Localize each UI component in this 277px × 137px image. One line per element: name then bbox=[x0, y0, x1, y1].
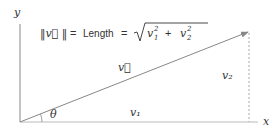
radicand-v1-sup: 2 bbox=[153, 25, 159, 33]
y-axis-label: y bbox=[13, 6, 21, 19]
vector-diagram: y x v⃗ v₁ v₂ θ ‖v⃗ ‖ = Length = v 2 1 + … bbox=[0, 0, 277, 137]
formula-length-word: Length bbox=[83, 28, 114, 39]
radicand-v1-sub: 1 bbox=[154, 34, 158, 42]
radicand-v2-sup: 2 bbox=[186, 25, 192, 33]
v2-label: v₂ bbox=[222, 69, 233, 82]
radicand-v2: v bbox=[180, 27, 187, 40]
v1-label: v₁ bbox=[130, 106, 141, 119]
formula-norm: ‖v⃗ ‖ bbox=[40, 27, 67, 41]
formula-plus: + bbox=[165, 27, 171, 39]
formula-equals-1: = bbox=[70, 27, 76, 39]
x-axis-label: x bbox=[263, 115, 270, 128]
vector-label: v⃗ bbox=[118, 61, 131, 74]
radicand-v1: v bbox=[147, 27, 154, 40]
formula-equals-2: = bbox=[121, 27, 127, 39]
theta-label: θ bbox=[50, 108, 57, 121]
angle-arc bbox=[41, 114, 43, 122]
radicand-v2-sub: 2 bbox=[186, 34, 192, 42]
length-formula: ‖v⃗ ‖ = Length = v 2 1 + v 2 2 bbox=[40, 23, 208, 42]
